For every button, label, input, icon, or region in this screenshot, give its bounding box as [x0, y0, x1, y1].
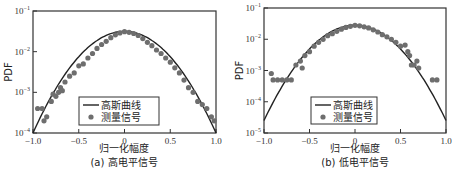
data-point — [302, 53, 307, 58]
data-point — [200, 102, 205, 107]
x-axis-label: 归一化幅度 — [330, 142, 380, 154]
data-point — [371, 27, 376, 32]
data-point — [325, 33, 330, 38]
data-point — [271, 77, 276, 82]
data-point — [414, 59, 419, 64]
data-point — [172, 65, 177, 70]
y-tick-label: 10−3 — [246, 65, 261, 76]
x-axis-label: 归一化幅度 — [99, 142, 149, 154]
data-point — [348, 24, 353, 29]
data-point — [127, 30, 132, 35]
legend-label-measured: 测量信号 — [101, 111, 141, 123]
data-point — [40, 106, 45, 111]
data-point — [76, 63, 81, 68]
x-tick-label: 0.5 — [395, 136, 407, 146]
data-point — [99, 42, 104, 47]
data-point — [154, 47, 159, 52]
data-point — [72, 70, 77, 75]
data-point — [380, 32, 385, 37]
data-point — [136, 33, 141, 38]
data-point — [44, 114, 49, 119]
legend-dot-icon — [320, 114, 325, 119]
panel-caption: (b) 低电平信号 — [321, 156, 388, 168]
data-point — [434, 77, 439, 82]
data-point — [81, 61, 86, 66]
x-tick-label: −1.0 — [256, 136, 273, 146]
data-point — [168, 60, 173, 65]
data-point — [113, 32, 118, 37]
data-point — [159, 51, 164, 56]
legend-label-gaussian: 高斯曲线 — [101, 99, 141, 111]
data-point — [62, 79, 67, 84]
data-point — [375, 29, 380, 34]
data-point — [384, 34, 389, 39]
data-point — [407, 53, 412, 58]
data-point — [67, 74, 72, 79]
data-point — [117, 30, 122, 35]
data-point — [104, 39, 109, 44]
data-point — [212, 118, 217, 123]
data-point — [357, 23, 362, 28]
data-point — [163, 55, 168, 60]
chart-panel-a: −1.0−0.500.51.010−110−210−310−4高斯曲线测量信号P… — [3, 5, 222, 168]
chart-panel-b: −1.0−0.500.51.010−110−210−310−410−5高斯曲线测… — [234, 2, 452, 168]
panel-caption: (a) 高电平信号 — [90, 156, 157, 168]
data-point — [145, 40, 150, 45]
data-point — [312, 44, 317, 49]
data-point — [403, 43, 408, 48]
x-tick-label: 0.5 — [165, 136, 177, 146]
data-point — [316, 40, 321, 45]
data-point — [90, 51, 95, 56]
data-point — [140, 36, 145, 41]
data-point — [293, 62, 298, 67]
legend: 高斯曲线测量信号 — [79, 97, 159, 125]
data-point — [298, 59, 303, 64]
data-point — [49, 99, 54, 104]
data-point — [195, 99, 200, 104]
data-point — [131, 31, 136, 36]
x-tick-label: 1.0 — [440, 136, 452, 146]
y-axis-label: PDF — [234, 61, 245, 81]
x-tick-label: 1.0 — [210, 136, 222, 146]
data-point — [269, 71, 274, 76]
data-point — [149, 43, 154, 48]
data-point — [35, 106, 40, 111]
legend: 高斯曲线测量信号 — [311, 97, 377, 124]
data-point — [416, 65, 421, 70]
measured-points — [269, 23, 440, 83]
data-point — [362, 24, 367, 29]
legend-label-measured: 测量信号 — [333, 111, 373, 123]
data-point — [284, 77, 289, 82]
data-point — [181, 78, 186, 83]
y-axis-label: PDF — [3, 62, 14, 82]
y-tick-label: 10−1 — [15, 5, 30, 16]
y-tick-label: 10−2 — [15, 46, 30, 57]
data-point — [393, 40, 398, 45]
data-point — [389, 37, 394, 42]
data-point — [398, 44, 403, 49]
data-point — [339, 27, 344, 32]
data-point — [85, 55, 90, 60]
y-tick-label: 10−3 — [15, 86, 30, 97]
data-point — [186, 85, 191, 90]
data-point — [352, 23, 357, 28]
data-point — [334, 29, 339, 34]
data-point — [280, 77, 285, 82]
data-point — [289, 77, 294, 82]
y-tick-label: 10−1 — [246, 2, 261, 13]
data-point — [343, 25, 348, 30]
data-point — [275, 77, 280, 82]
data-point — [321, 37, 326, 42]
data-point — [191, 90, 196, 95]
data-point — [430, 77, 435, 82]
data-point — [94, 46, 99, 51]
y-tick-label: 10−2 — [246, 33, 261, 44]
legend-dot-icon — [88, 114, 93, 119]
data-point — [177, 70, 182, 75]
y-tick-label: 10−4 — [246, 96, 261, 107]
data-point — [204, 106, 209, 111]
data-point — [122, 29, 127, 34]
data-point — [330, 31, 335, 36]
x-tick-label: −1.0 — [25, 136, 42, 146]
data-point — [300, 65, 305, 70]
